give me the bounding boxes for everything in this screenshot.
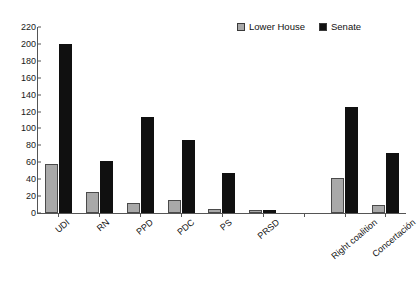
bar-senate bbox=[345, 107, 358, 213]
x-axis-label: PS bbox=[219, 218, 234, 233]
bar-lower-house bbox=[86, 192, 99, 213]
bar-senate bbox=[263, 210, 276, 213]
x-axis-label-cell: Right coalition bbox=[324, 214, 365, 280]
x-axis-label: Concertación bbox=[371, 218, 417, 259]
x-axis-label: PPD bbox=[135, 218, 155, 237]
plot-area: 020406080100120140160180200220 bbox=[37, 27, 406, 214]
y-axis-tick: 220 bbox=[21, 23, 37, 32]
bar-group bbox=[161, 27, 202, 213]
bar-senate bbox=[182, 140, 195, 213]
x-axis-label: PDC bbox=[176, 218, 196, 237]
x-axis-label-cell: PRSD bbox=[242, 214, 283, 280]
bar-group bbox=[242, 27, 283, 213]
y-axis-tick-label: 20 bbox=[26, 192, 36, 201]
y-axis-tick-label: 180 bbox=[21, 56, 36, 65]
y-axis-tick: 180 bbox=[21, 56, 37, 65]
y-axis-tick: 160 bbox=[21, 73, 37, 82]
x-axis-label-cell: PS bbox=[202, 214, 243, 280]
y-axis-tick-label: 120 bbox=[21, 107, 36, 116]
bar-lower-house bbox=[331, 178, 344, 213]
x-axis-label-cell: RN bbox=[79, 214, 120, 280]
y-axis-tick-label: 100 bbox=[21, 124, 36, 133]
y-axis-tick: 100 bbox=[21, 124, 37, 133]
bar-senate bbox=[386, 153, 399, 213]
bar-group bbox=[79, 27, 120, 213]
bar-lower-house bbox=[127, 203, 140, 213]
y-axis-tick-label: 0 bbox=[31, 209, 36, 218]
bar-senate bbox=[100, 161, 113, 213]
y-axis-tick-label: 160 bbox=[21, 73, 36, 82]
x-axis-label: PRSD bbox=[256, 218, 281, 241]
bar-lower-house bbox=[249, 210, 262, 213]
y-axis-tick: 0 bbox=[31, 209, 37, 218]
y-axis-tick-label: 40 bbox=[26, 175, 36, 184]
y-axis-tick-label: 80 bbox=[26, 141, 36, 150]
y-axis-tick: 140 bbox=[21, 90, 37, 99]
bar-lower-house bbox=[168, 200, 181, 213]
x-axis-label-cell bbox=[283, 214, 324, 280]
y-axis-tick-label: 200 bbox=[21, 39, 36, 48]
bar-groups bbox=[38, 27, 406, 213]
x-axis-label-cell: Concertación bbox=[365, 214, 406, 280]
y-axis-tick: 20 bbox=[26, 192, 37, 201]
bar-group bbox=[365, 27, 406, 213]
x-axis-label-cell: PPD bbox=[120, 214, 161, 280]
bar-group bbox=[202, 27, 243, 213]
bar-senate bbox=[222, 173, 235, 213]
x-axis-label: RN bbox=[96, 218, 112, 233]
x-axis-label-cell: PDC bbox=[161, 214, 202, 280]
bar-group bbox=[38, 27, 79, 213]
y-axis-tick-label: 220 bbox=[21, 23, 36, 32]
bar-group bbox=[120, 27, 161, 213]
y-axis-tick: 80 bbox=[26, 141, 37, 150]
y-axis-tick-label: 60 bbox=[26, 158, 36, 167]
x-axis-label: UDI bbox=[54, 218, 72, 235]
y-axis-tick: 200 bbox=[21, 39, 37, 48]
x-axis-label-cell: UDI bbox=[38, 214, 79, 280]
y-axis-tick-label: 140 bbox=[21, 90, 36, 99]
bar-lower-house bbox=[45, 164, 58, 213]
bar-lower-house bbox=[208, 209, 221, 213]
bar-group bbox=[283, 27, 324, 213]
bar-senate bbox=[141, 117, 154, 213]
x-axis-labels: UDIRNPPDPDCPSPRSDRight coalitionConcerta… bbox=[38, 214, 406, 280]
y-axis-tick: 120 bbox=[21, 107, 37, 116]
y-axis-tick: 40 bbox=[26, 175, 37, 184]
y-axis-tick: 60 bbox=[26, 158, 37, 167]
bar-group bbox=[324, 27, 365, 213]
bar-senate bbox=[59, 44, 72, 213]
bar-lower-house bbox=[372, 205, 385, 213]
